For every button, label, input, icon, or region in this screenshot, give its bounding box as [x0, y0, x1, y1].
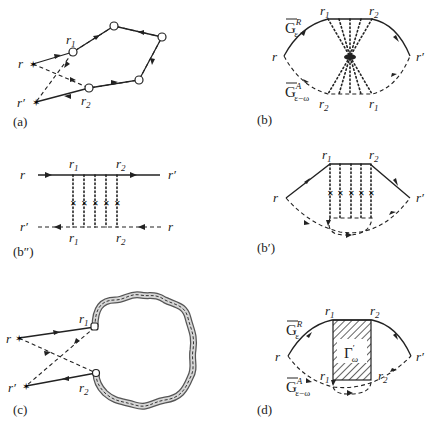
- label-r: r: [273, 190, 279, 205]
- label-r2: r2: [79, 380, 89, 397]
- arrow-icon: [304, 220, 310, 225]
- arrow-icon: [64, 61, 70, 68]
- advanced-propagator: [286, 198, 410, 233]
- label-r-prime: r′: [416, 349, 424, 364]
- label-top-r2: r2: [370, 303, 380, 320]
- arrow-icon: [331, 380, 336, 386]
- solid-out: [26, 373, 96, 386]
- caption-c: (c): [13, 402, 27, 417]
- label-right-top: r′: [168, 167, 176, 182]
- node-r1: [69, 48, 77, 56]
- label-r-prime: r′: [17, 95, 25, 110]
- star-icon: ✶: [32, 97, 40, 108]
- inner-loop: [333, 380, 371, 394]
- node-r1: [91, 323, 98, 330]
- cross-icon: ✕: [358, 189, 365, 198]
- closed-loop-tube: [95, 295, 194, 407]
- label-r1: r1: [66, 32, 76, 49]
- label-r: r: [272, 49, 278, 64]
- label-top-r1: r1: [69, 156, 79, 173]
- cross-icon: ✕: [368, 189, 375, 198]
- diagram-figure: ✶ ✶ r r′ r1 r2 (a) r r′ r1 r2 r2 r1 GRε: [0, 0, 439, 429]
- node: [110, 22, 118, 30]
- label-bot-r2: r2: [319, 96, 329, 113]
- arrow-icon: [391, 73, 397, 77]
- node: [158, 33, 166, 41]
- label-r-prime: r′: [416, 49, 424, 64]
- caption-a: (a): [13, 114, 27, 129]
- panel-b: r r′ r1 r2 r2 r1 GRε GAε−ω (b): [257, 3, 424, 127]
- label-top-r1: r1: [320, 3, 330, 20]
- node: [135, 76, 143, 84]
- cross-icon: ✕: [103, 199, 110, 208]
- label-r2: r2: [81, 93, 91, 110]
- arrow-icon: [347, 390, 353, 396]
- panel-d: Γ′ω r r′ r1 r2 r1 r2 GRε GAε−ω (d): [257, 303, 424, 417]
- inner-loop: [329, 218, 372, 235]
- label-r: r: [18, 56, 24, 71]
- dashed-in: [19, 338, 96, 373]
- cross-icon: ✕: [337, 189, 344, 198]
- impurity-ladder: ✕ ✕ ✕ ✕ ✕: [327, 164, 375, 218]
- label-left-top: r: [20, 167, 26, 182]
- crossing-point: [344, 54, 356, 60]
- label-bot-r1: r1: [369, 96, 379, 113]
- label-r-prime: r′: [416, 190, 424, 205]
- arrow-icon: [130, 172, 137, 178]
- label-left-bot: r′: [20, 219, 28, 234]
- star-icon: ✶: [15, 333, 23, 344]
- cross-icon: ✕: [92, 199, 99, 208]
- closed-loop-dashed: [95, 295, 194, 407]
- arrow-icon: [44, 351, 51, 356]
- star-icon: ✶: [22, 381, 30, 392]
- arrow-icon: [300, 30, 306, 36]
- arrow-icon: [150, 58, 155, 65]
- cross-icon: ✕: [327, 189, 334, 198]
- label-r1: r1: [79, 311, 89, 328]
- label-r-prime: r′: [8, 380, 16, 395]
- node-r2: [85, 84, 93, 92]
- label-r: r: [275, 349, 281, 364]
- panel-c: ✶ ✶ r r′ r1 r2 (c): [6, 295, 194, 417]
- arrow-icon: [306, 378, 312, 383]
- label-bot-r2: r2: [378, 368, 388, 385]
- label-r: r: [6, 331, 12, 346]
- closed-loop-inner: [95, 295, 194, 407]
- caption-d: (d): [257, 402, 272, 417]
- label-G-advanced: GAε−ω: [285, 81, 309, 103]
- label-top-r2: r2: [116, 156, 126, 173]
- cross-icon: ✕: [70, 199, 77, 208]
- impurity-ladder: ✕ ✕ ✕ ✕ ✕: [70, 175, 121, 227]
- caption-b-double-prime: (b″): [13, 244, 34, 259]
- arrow-icon: [389, 211, 396, 215]
- arrow-icon: [45, 172, 52, 178]
- arrow-icon: [54, 224, 61, 230]
- panel-a: ✶ ✶ r r′ r1 r2 (a): [13, 22, 166, 129]
- arrow-icon: [138, 224, 145, 230]
- cross-icon: ✕: [348, 189, 355, 198]
- cross-icon: ✕: [81, 199, 88, 208]
- label-top-r2: r2: [369, 147, 379, 164]
- arrow-icon: [303, 79, 309, 83]
- label-bot-r1: r1: [69, 230, 79, 247]
- label-G-retarded: GRε: [286, 319, 303, 341]
- label-top-r1: r1: [322, 147, 332, 164]
- label-top-r1: r1: [325, 303, 335, 320]
- panel-b-prime: ✕ ✕ ✕ ✕ ✕ r r′ r1 r2 (b′): [257, 147, 424, 255]
- label-right-bot: r: [168, 219, 174, 234]
- label-bot-r2: r2: [116, 230, 126, 247]
- cross-icon: ✕: [114, 199, 121, 208]
- panel-b-double-prime: ✕ ✕ ✕ ✕ ✕ r r′ r′ r r1 r2 r1 r2 (b″): [13, 156, 176, 259]
- caption-b: (b): [257, 112, 272, 127]
- node-r2: [93, 370, 100, 377]
- star-icon: ✶: [29, 59, 37, 70]
- arrow-icon: [138, 30, 144, 35]
- crossed-impurity-lines: [328, 19, 372, 94]
- label-top-r2: r2: [369, 3, 379, 20]
- label-bot-r1: r1: [320, 368, 330, 385]
- arrow-icon: [53, 330, 60, 335]
- caption-b-prime: (b′): [257, 240, 275, 255]
